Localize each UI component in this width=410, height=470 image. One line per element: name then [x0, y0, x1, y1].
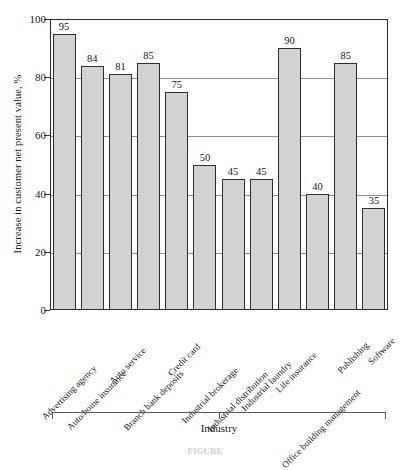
bar-group[interactable]: 90	[275, 19, 303, 310]
bar-group[interactable]: 85	[332, 19, 360, 310]
bar[interactable]	[193, 165, 216, 311]
bar-group[interactable]: 45	[219, 19, 247, 310]
y-axis-tick-label: 80	[0, 71, 46, 83]
y-axis-tick-label: 20	[0, 246, 46, 258]
bracket-center-tick	[219, 413, 220, 418]
bar[interactable]	[362, 208, 385, 310]
bar[interactable]	[81, 66, 104, 310]
x-axis-category-label: Software	[366, 336, 397, 367]
x-axis-title: Industry	[52, 422, 386, 434]
y-axis-tick-label: 100	[0, 13, 46, 25]
bar-group[interactable]: 75	[163, 19, 191, 310]
bar[interactable]	[222, 179, 245, 310]
x-axis-category-label: Credit card	[166, 341, 203, 378]
bar-group[interactable]: 85	[135, 19, 163, 310]
bar[interactable]	[165, 92, 188, 310]
x-axis-category-labels: Advertising agencyAuto/home insuranceAut…	[50, 312, 388, 408]
bars-layer: 958481857550454590408535	[50, 19, 388, 310]
bar[interactable]	[109, 74, 132, 310]
bar[interactable]	[334, 63, 357, 310]
bar-group[interactable]: 40	[304, 19, 332, 310]
bar[interactable]	[250, 179, 273, 310]
bar-group[interactable]: 35	[360, 19, 388, 310]
bar-group[interactable]: 81	[106, 19, 134, 310]
y-axis-tick-label: 60	[0, 129, 46, 141]
figure-caption: FIGURE	[0, 446, 410, 456]
bar-value-label: 35	[354, 195, 394, 206]
bar[interactable]	[278, 48, 301, 310]
y-axis-tick-label: 0	[0, 304, 46, 316]
x-axis-category-label: Auto service	[107, 345, 148, 386]
bar-group[interactable]: 50	[191, 19, 219, 310]
bar[interactable]	[306, 194, 329, 310]
bar-group[interactable]: 45	[247, 19, 275, 310]
x-axis-bracket	[52, 412, 386, 419]
x-axis-category-label: Publishing	[335, 340, 370, 375]
y-axis-title: Increase in customer net present value, …	[12, 18, 26, 310]
bar[interactable]	[53, 34, 76, 310]
y-axis-tick-label: 40	[0, 188, 46, 200]
y-axis-tick-mark	[44, 310, 50, 311]
bar[interactable]	[137, 63, 160, 310]
